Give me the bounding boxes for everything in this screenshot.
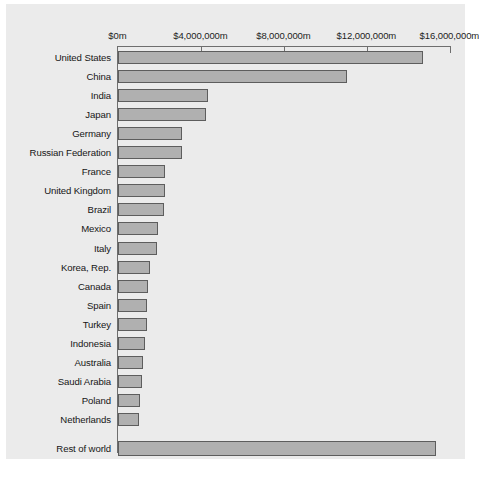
bar-row: France	[6, 162, 465, 181]
bar-row: Japan	[6, 105, 465, 124]
bar-category-label: Italy	[0, 243, 111, 254]
bar-row: Saudi Arabia	[6, 372, 465, 391]
bar[interactable]	[118, 299, 146, 312]
bar-row: Rest of world	[6, 439, 465, 458]
bar-row: Korea, Rep.	[6, 258, 465, 277]
bar-category-label: Russian Federation	[0, 147, 111, 158]
bar-category-label: France	[0, 166, 111, 177]
bar-row: Australia	[6, 353, 465, 372]
bar[interactable]	[118, 70, 346, 83]
bar-row: Germany	[6, 124, 465, 143]
bar-category-label: Korea, Rep.	[0, 262, 111, 273]
bar-category-label: India	[0, 90, 111, 101]
bar[interactable]	[118, 337, 145, 350]
bar[interactable]	[118, 356, 143, 369]
bar-row: Indonesia	[6, 334, 465, 353]
bar-category-label: Rest of world	[0, 443, 111, 454]
bar[interactable]	[118, 261, 149, 274]
bar[interactable]	[118, 165, 165, 178]
bar[interactable]	[118, 203, 164, 216]
bar[interactable]	[118, 222, 157, 235]
bar-category-label: Canada	[0, 281, 111, 292]
bar[interactable]	[118, 413, 139, 426]
bar-category-label: Saudi Arabia	[0, 376, 111, 387]
bar-category-label: Mexico	[0, 223, 111, 234]
bar[interactable]	[118, 146, 181, 159]
bar[interactable]	[118, 184, 165, 197]
bar-row: Mexico	[6, 219, 465, 238]
bar-category-label: Germany	[0, 128, 111, 139]
bar-row: Italy	[6, 239, 465, 258]
bar-row: Spain	[6, 296, 465, 315]
bar-row: Canada	[6, 277, 465, 296]
bar[interactable]	[118, 127, 181, 140]
bar[interactable]	[118, 441, 435, 456]
bar[interactable]	[118, 318, 147, 331]
page-margin	[0, 459, 471, 485]
bar-category-label: Spain	[0, 300, 111, 311]
bar-row: United Kingdom	[6, 181, 465, 200]
bar-category-label: Poland	[0, 395, 111, 406]
bar-category-label: Japan	[0, 109, 111, 120]
bar-chart-card: $0m$4,000,000m$8,000,000m$12,000,000m$16…	[6, 4, 465, 459]
bar[interactable]	[118, 394, 139, 407]
bar-row: China	[6, 67, 465, 86]
bar[interactable]	[118, 89, 207, 102]
bar[interactable]	[118, 108, 205, 121]
bar-row: Netherlands	[6, 410, 465, 429]
bar-row: Poland	[6, 391, 465, 410]
bar-row: Brazil	[6, 200, 465, 219]
bar-row-group: United StatesChinaIndiaJapanGermanyRussi…	[6, 4, 465, 459]
bar-category-label: United States	[0, 52, 111, 63]
bar[interactable]	[118, 242, 157, 255]
bar-category-label: Australia	[0, 357, 111, 368]
bar[interactable]	[118, 375, 141, 388]
bar-category-label: Indonesia	[0, 338, 111, 349]
bar-category-label: China	[0, 71, 111, 82]
bar-category-label: United Kingdom	[0, 185, 111, 196]
bar-row: United States	[6, 48, 465, 67]
bar-row: Turkey	[6, 315, 465, 334]
bar[interactable]	[118, 51, 423, 64]
bar-category-label: Netherlands	[0, 414, 111, 425]
bar-category-label: Brazil	[0, 204, 111, 215]
bar-category-label: Turkey	[0, 319, 111, 330]
bar[interactable]	[118, 280, 148, 293]
bar-row: India	[6, 86, 465, 105]
bar-row: Russian Federation	[6, 143, 465, 162]
